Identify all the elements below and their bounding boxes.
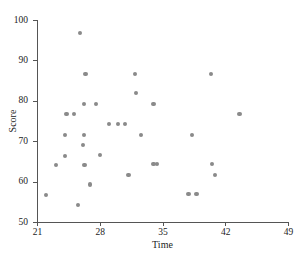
data-point — [155, 162, 159, 166]
data-point — [63, 133, 67, 137]
data-point — [72, 112, 76, 116]
data-point — [76, 203, 80, 207]
y-axis-title: Score — [8, 110, 18, 133]
data-point — [123, 122, 127, 126]
data-point — [186, 192, 190, 196]
y-tick-label: 70 — [19, 137, 29, 147]
data-point — [82, 102, 86, 106]
data-point — [44, 193, 48, 197]
data-point — [213, 173, 217, 177]
data-point — [98, 153, 102, 157]
data-point — [210, 162, 214, 166]
data-point — [134, 91, 138, 95]
y-tick-mark: 100 — [33, 20, 37, 21]
y-axis-line — [37, 20, 38, 223]
y-tick-label: 80 — [19, 97, 29, 107]
scatter-plot-figure: 5060708090100 2128354249 Time Score — [0, 0, 299, 258]
data-point — [81, 143, 85, 147]
x-tick-label: 35 — [158, 228, 168, 238]
x-axis-title: Time — [37, 240, 288, 250]
data-point — [139, 133, 143, 137]
y-tick-mark: 60 — [33, 182, 37, 183]
data-point — [126, 173, 130, 177]
y-tick-mark: 80 — [33, 101, 37, 102]
y-tick-mark: 90 — [33, 60, 37, 61]
data-point — [190, 133, 194, 137]
x-tick-mark: 49 — [288, 222, 289, 226]
data-point — [209, 72, 213, 76]
y-tick-label: 60 — [19, 177, 29, 187]
data-point — [133, 72, 137, 76]
data-point — [64, 112, 68, 116]
data-point — [194, 192, 198, 196]
y-tick-mark: 70 — [33, 141, 37, 142]
y-tick-label: 90 — [19, 56, 29, 66]
data-point — [63, 154, 67, 158]
data-point — [78, 31, 82, 35]
x-tick-label: 49 — [284, 228, 294, 238]
plot-area: 5060708090100 2128354249 — [37, 20, 288, 222]
x-tick-mark: 28 — [100, 222, 101, 226]
data-point — [237, 112, 241, 116]
y-tick-label: 100 — [14, 16, 28, 26]
data-point — [94, 102, 98, 106]
data-point — [83, 72, 87, 76]
data-point — [107, 122, 111, 126]
x-tick-label: 21 — [33, 228, 43, 238]
x-tick-mark: 42 — [225, 222, 226, 226]
data-point — [54, 163, 58, 167]
x-tick-mark: 21 — [37, 222, 38, 226]
data-point — [82, 163, 86, 167]
y-tick-label: 50 — [19, 218, 29, 228]
data-point — [116, 122, 120, 126]
x-tick-label: 28 — [96, 228, 106, 238]
data-point — [82, 133, 86, 137]
data-point — [88, 182, 92, 186]
x-tick-label: 42 — [221, 228, 231, 238]
x-tick-mark: 35 — [163, 222, 164, 226]
data-point — [151, 102, 155, 106]
